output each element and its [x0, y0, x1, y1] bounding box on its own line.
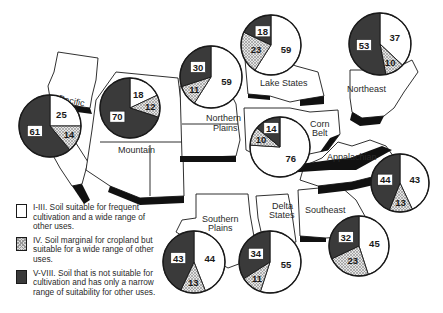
legend-text-class-i-iii: I-III. Soil suitable for frequent cultiv…: [33, 202, 145, 231]
pie-southern-plains: 441343: [163, 231, 225, 293]
pie-lake-states: 592318: [241, 15, 301, 75]
pie-northeast: 371053: [349, 13, 411, 75]
pie-value-label: 12: [145, 101, 156, 112]
pie-value-label: 76: [285, 153, 296, 164]
pie-value-label: 18: [257, 26, 268, 37]
legend-item-class-i-iii: I-III. Soil suitable for frequent cultiv…: [14, 203, 164, 232]
pie-value-label: 13: [188, 277, 199, 288]
pie-value-label: 32: [341, 232, 352, 243]
pie-value-label: 43: [173, 253, 184, 264]
legend-text-class-iv: IV. Soil marginal for cropland but suita…: [33, 235, 154, 264]
pie-value-label: 44: [380, 174, 391, 185]
region-label-lake-states: Lake States: [260, 78, 308, 88]
region-label-appalachian: Appalachian: [327, 152, 377, 162]
pie-value-label: 53: [359, 40, 370, 51]
legend-text-class-v-viii: V-VIII. Soil that is not suitable for cu…: [33, 268, 155, 297]
pie-value-label: 13: [395, 197, 406, 208]
pie-pacific: 251461: [19, 95, 81, 157]
pie-value-label: 25: [56, 109, 67, 120]
dark-swatch-icon: [16, 270, 27, 284]
region-label-mountain: Mountain: [118, 145, 155, 155]
pie-delta-states: 551134: [239, 231, 301, 293]
region-label-delta-2: States: [269, 210, 295, 220]
pie-value-label: 34: [251, 248, 262, 259]
region-label-corn-belt-2: Belt: [312, 128, 328, 138]
region-label-northern-plains-1: Northern: [206, 113, 241, 123]
pie-northern-plains: 591130: [180, 46, 242, 108]
pie-value-label: 23: [251, 44, 262, 55]
pie-value-label: 55: [281, 259, 292, 270]
pie-value-label: 37: [390, 32, 401, 43]
region-label-southeast: Southeast: [305, 205, 346, 215]
pie-corn-belt: 761014: [250, 117, 310, 177]
pie-mountain: 181270: [100, 78, 160, 138]
pie-value-label: 59: [221, 76, 232, 87]
hatched-swatch-icon: [16, 237, 27, 251]
pie-value-label: 59: [281, 44, 292, 55]
pie-value-label: 43: [409, 174, 420, 185]
pie-southeast: 452332: [329, 216, 389, 276]
pie-value-label: 11: [189, 84, 200, 95]
pie-value-label: 10: [385, 57, 396, 68]
pie-value-label: 23: [348, 255, 359, 266]
pie-value-label: 70: [112, 111, 123, 122]
pie-value-label: 10: [256, 134, 267, 145]
pie-value-label: 18: [133, 89, 144, 100]
pie-value-label: 44: [205, 253, 216, 264]
legend-item-class-v-viii: V-VIII. Soil that is not suitable for cu…: [14, 269, 164, 298]
pie-value-label: 61: [30, 126, 41, 137]
legend-item-class-iv: IV. Soil marginal for cropland but suita…: [14, 236, 164, 265]
region-label-northern-plains-2: Plains: [213, 123, 238, 133]
pie-value-label: 45: [369, 238, 380, 249]
pie-value-label: 14: [64, 129, 75, 140]
pie-value-label: 30: [193, 62, 204, 73]
region-label-southern-plains-2: Plains: [208, 223, 233, 233]
region-label-northeast: Northeast: [347, 84, 387, 94]
pie-value-label: 14: [266, 123, 277, 134]
pie-appalachian: 431344: [371, 154, 429, 212]
white-swatch-icon: [16, 204, 27, 218]
legend: I-III. Soil suitable for frequent cultiv…: [14, 203, 164, 301]
pie-value-label: 11: [252, 273, 263, 284]
